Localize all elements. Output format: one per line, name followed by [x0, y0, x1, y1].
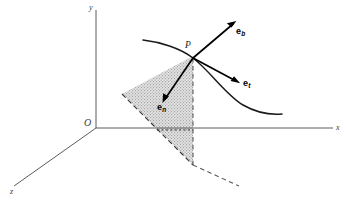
drop-line-group [193, 58, 239, 186]
z-axis-label: z [10, 188, 13, 196]
vector-tangent-arrowhead [231, 76, 241, 83]
y-axis-label: y [89, 4, 93, 12]
drop-line-extension [193, 165, 239, 186]
vector-binormal-label: eb [236, 27, 245, 37]
vector-binormal-arrowhead [227, 21, 237, 28]
vector-normal-label: en [157, 103, 166, 113]
point-p-label: P [185, 41, 191, 51]
vector-binormal-subscript: b [241, 30, 245, 37]
vector-normal-subscript: n [162, 106, 166, 113]
diagram-canvas [0, 0, 347, 203]
x-axis-label: x [336, 124, 340, 132]
origin-label: O [84, 118, 91, 128]
z-axis [14, 128, 96, 186]
vector-binormal-group [193, 21, 236, 58]
figure-root: y x z O P eb et en [0, 0, 347, 203]
vector-tangent-label: et [243, 79, 250, 89]
vector-binormal-shaft [193, 24, 233, 58]
vector-tangent-group [193, 58, 240, 83]
point-p-marker [192, 57, 194, 59]
vector-tangent-shaft [193, 58, 236, 81]
vector-tangent-subscript: t [248, 82, 250, 89]
